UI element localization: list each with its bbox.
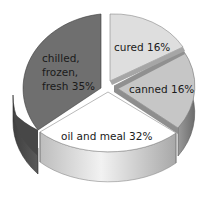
label-cured: cured 16% [114,41,170,53]
pie-chart: cured 16% canned 16% oil and meal 32% ch… [0,0,213,208]
label-oil-and-meal: oil and meal 32% [61,130,152,142]
label-chilled-line2: frozen, [42,66,78,78]
label-chilled-line3: fresh 35% [42,80,95,92]
label-canned: canned 16% [129,83,194,95]
label-chilled-line1: chilled, [42,52,80,64]
